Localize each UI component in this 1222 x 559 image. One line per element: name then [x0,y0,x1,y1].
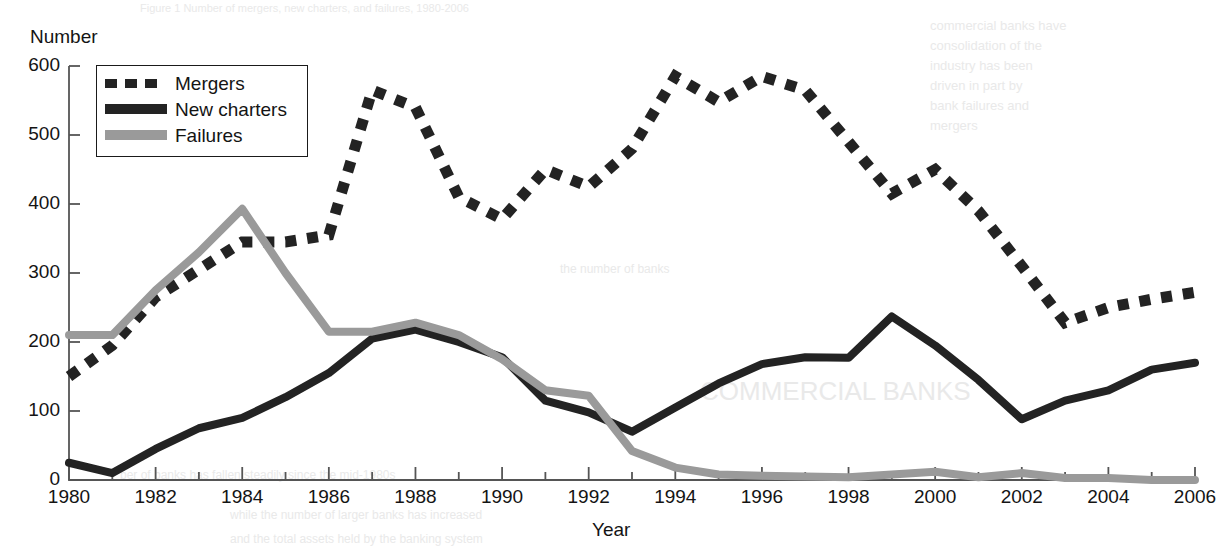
legend-swatch-failures [105,130,167,140]
legend-label-failures: Failures [175,126,243,145]
legend-item-failures: Failures [105,122,243,148]
chart-legend: Mergers New charters Failures [96,65,308,157]
legend-item-mergers: Mergers [105,70,245,96]
legend-swatch-mergers [105,79,167,88]
series-line-failures [69,209,1195,480]
legend-label-mergers: Mergers [175,74,245,93]
legend-swatch-new-charters [105,104,167,114]
figure-bank-consolidation: Figure 1 Number of mergers, new charters… [0,0,1222,559]
legend-item-new-charters: New charters [105,96,287,122]
legend-label-new-charters: New charters [175,100,287,119]
